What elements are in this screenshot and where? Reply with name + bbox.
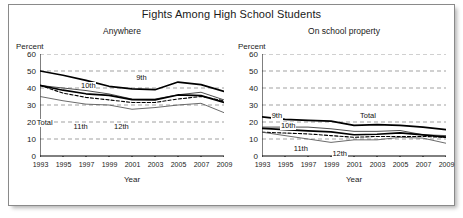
- x-tick-label: 2003: [370, 161, 386, 168]
- x-tick-label: 2009: [439, 161, 455, 168]
- x-axis-title: Year: [262, 175, 446, 184]
- series-annotation-total: Total: [360, 112, 377, 120]
- page-title: Fights Among High School Students: [0, 8, 463, 20]
- y-tick-label: 10: [27, 135, 36, 144]
- y-tick-label: 40: [249, 84, 258, 93]
- series-annotation-11th: 11th: [293, 145, 308, 153]
- y-tick-label: 20: [27, 118, 36, 127]
- y-tick-label: 50: [27, 67, 36, 76]
- series-line-10th: [40, 85, 224, 99]
- x-tick-label: 2001: [347, 161, 363, 168]
- x-tick-label: 1995: [278, 161, 294, 168]
- y-tick-label: 0: [254, 152, 258, 161]
- x-tick-label: 1993: [255, 161, 271, 168]
- x-tick-label: 2001: [125, 161, 141, 168]
- plot-svg: [262, 54, 446, 157]
- series-annotation-total: Total: [36, 119, 53, 127]
- series-annotation-9th: 9th: [271, 112, 282, 120]
- x-tick-label: 1995: [56, 161, 72, 168]
- y-tick-label: 60: [27, 50, 36, 59]
- x-tick-label: 1993: [33, 161, 49, 168]
- panel-anywhere-subtitle: Anywhere: [14, 26, 230, 36]
- plot-svg: [40, 54, 224, 157]
- x-tick-label: 1997: [79, 161, 95, 168]
- x-tick-label: 2009: [217, 161, 233, 168]
- y-tick-label: 0: [32, 152, 36, 161]
- x-tick-label: 1997: [301, 161, 317, 168]
- panel-school: On school property Percent 0102030405060…: [236, 26, 452, 196]
- y-tick-label: 50: [249, 67, 258, 76]
- x-tick-label: 1999: [324, 161, 340, 168]
- series-annotation-10th: 10th: [80, 82, 96, 90]
- panel-anywhere: Anywhere Percent 01020304050601993199519…: [14, 26, 230, 196]
- x-tick-label: 2007: [416, 161, 432, 168]
- x-axis-title: Year: [40, 175, 224, 184]
- y-tick-label: 20: [249, 118, 258, 127]
- chart-figure: Fights Among High School Students Anywhe…: [0, 0, 463, 218]
- x-tick-label: 1999: [102, 161, 118, 168]
- x-tick-label: 2005: [171, 161, 187, 168]
- series-annotation-11th: 11th: [73, 123, 88, 131]
- series-annotation-9th: 9th: [136, 74, 147, 82]
- y-tick-label: 10: [249, 135, 258, 144]
- plot-area-school: 0102030405060199319951997199920012003200…: [262, 54, 446, 156]
- x-tick-label: 2005: [393, 161, 409, 168]
- plot-area-anywhere: 0102030405060199319951997199920012003200…: [40, 54, 224, 156]
- y-tick-label: 30: [27, 101, 36, 110]
- series-annotation-12th: 12th: [332, 150, 348, 158]
- x-tick-label: 2003: [148, 161, 164, 168]
- y-tick-label: 40: [27, 84, 36, 93]
- y-tick-label: 30: [249, 101, 258, 110]
- panel-school-subtitle: On school property: [236, 26, 452, 36]
- x-tick-label: 2007: [194, 161, 210, 168]
- series-annotation-10th: 10th: [280, 122, 296, 130]
- series-annotation-12th: 12th: [114, 123, 130, 131]
- y-tick-label: 60: [249, 50, 258, 59]
